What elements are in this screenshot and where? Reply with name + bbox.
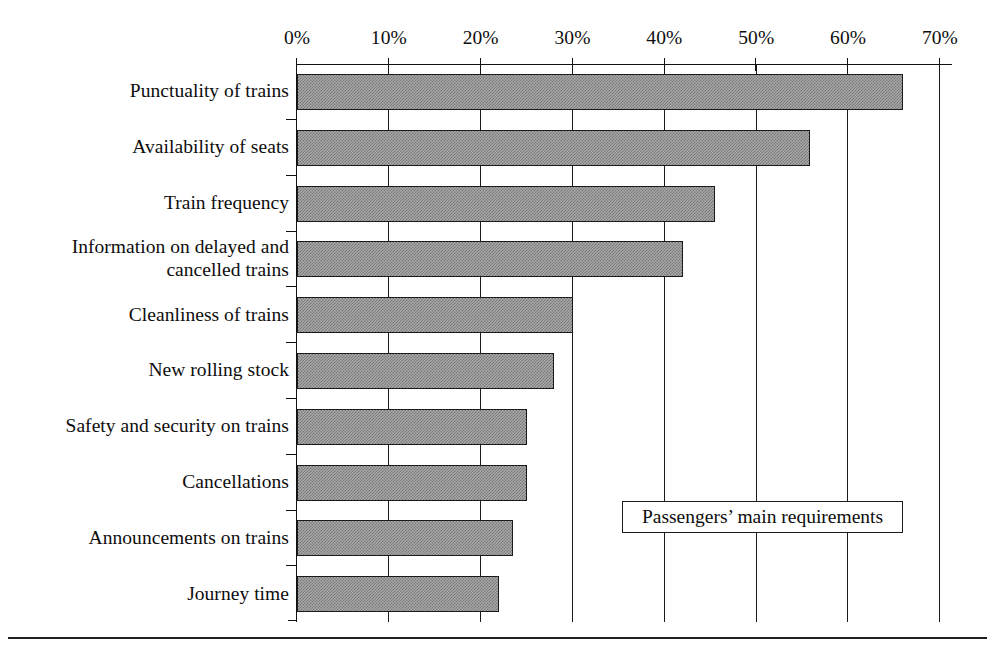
x-tick-70	[939, 58, 940, 71]
x-tick-0	[296, 58, 297, 71]
y-tick-8	[286, 565, 297, 566]
legend-label: Passengers’ main requirements	[642, 506, 883, 528]
x-axis-label-20: 20%	[463, 28, 499, 47]
y-tick-4	[286, 342, 297, 343]
bar-cleanliness-of-trains	[297, 297, 573, 333]
gridline-60	[847, 64, 848, 622]
y-tick-1	[286, 175, 297, 176]
y-tick-5	[286, 398, 297, 399]
category-label-cancellations: Cancellations	[0, 470, 289, 493]
category-label-new-rolling-stock: New rolling stock	[0, 358, 289, 381]
x-tick-50	[755, 58, 756, 71]
bar-announcements-on-trains	[297, 520, 513, 556]
y-tick-6	[286, 454, 297, 455]
category-label-announcements-on-trains: Announcements on trains	[0, 526, 289, 549]
bar-new-rolling-stock	[297, 353, 554, 389]
y-tick-0	[286, 119, 297, 120]
x-axis-label-10: 10%	[371, 28, 407, 47]
y-axis-foot	[288, 620, 297, 621]
x-axis-label-30: 30%	[555, 28, 591, 47]
bar-cancellations	[297, 465, 527, 501]
x-axis-line	[297, 64, 952, 65]
y-tick-2	[286, 231, 297, 232]
page-bottom-rule	[8, 637, 987, 639]
category-label-safety-and-security-on-trains: Safety and security on trains	[0, 414, 289, 437]
x-tick-60	[847, 58, 848, 71]
bar-safety-and-security-on-trains	[297, 409, 527, 445]
bar-availability-of-seats	[297, 130, 810, 166]
x-axis-label-60: 60%	[830, 28, 866, 47]
bar-train-frequency	[297, 186, 715, 222]
x-axis-label-70: 70%	[922, 28, 958, 47]
category-label-train-frequency: Train frequency	[0, 191, 289, 214]
bar-journey-time	[297, 576, 499, 612]
category-label-journey-time: Journey time	[0, 582, 289, 605]
x-axis-label-0: 0%	[284, 28, 310, 47]
gridline-70	[939, 64, 940, 622]
bar-chart: 0%10%20%30%40%50%60%70%Punctuality of tr…	[0, 0, 995, 655]
bar-information-on-delayed-and-cancelled-trains	[297, 241, 683, 277]
x-axis-label-40: 40%	[646, 28, 682, 47]
y-tick-7	[286, 510, 297, 511]
chart-legend: Passengers’ main requirements	[622, 501, 903, 533]
category-label-cleanliness-of-trains: Cleanliness of trains	[0, 303, 289, 326]
x-tick-30	[572, 58, 573, 71]
category-label-punctuality-of-trains: Punctuality of trains	[0, 79, 289, 102]
x-tick-10	[388, 58, 389, 71]
bar-punctuality-of-trains	[297, 74, 903, 110]
x-tick-20	[480, 58, 481, 71]
category-label-availability-of-seats: Availability of seats	[0, 135, 289, 158]
x-tick-40	[664, 58, 665, 71]
x-axis-label-50: 50%	[738, 28, 774, 47]
y-tick-3	[286, 286, 297, 287]
category-label-information-on-delayed-and-cancelled-trains: Information on delayed and cancelled tra…	[0, 235, 289, 281]
